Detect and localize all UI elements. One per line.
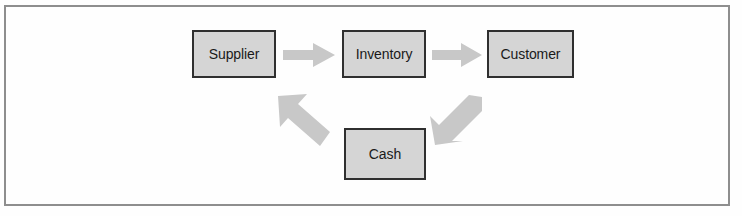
down-left-arrow-icon xyxy=(428,95,482,145)
right-arrow-icon xyxy=(283,43,335,67)
node-cash: Cash xyxy=(344,128,426,180)
node-supplier: Supplier xyxy=(192,30,276,78)
node-inventory-label: Inventory xyxy=(356,47,413,61)
right-arrow-icon xyxy=(432,43,482,67)
up-left-arrow-icon xyxy=(278,94,332,146)
node-supplier-label: Supplier xyxy=(209,47,260,61)
node-cash-label: Cash xyxy=(369,147,401,161)
figure-root: Supplier Inventory Customer Cash xyxy=(0,0,742,216)
node-inventory: Inventory xyxy=(342,30,426,78)
node-customer-label: Customer xyxy=(501,47,561,61)
flow-diagram: Supplier Inventory Customer Cash xyxy=(0,0,742,216)
node-customer: Customer xyxy=(487,30,574,78)
